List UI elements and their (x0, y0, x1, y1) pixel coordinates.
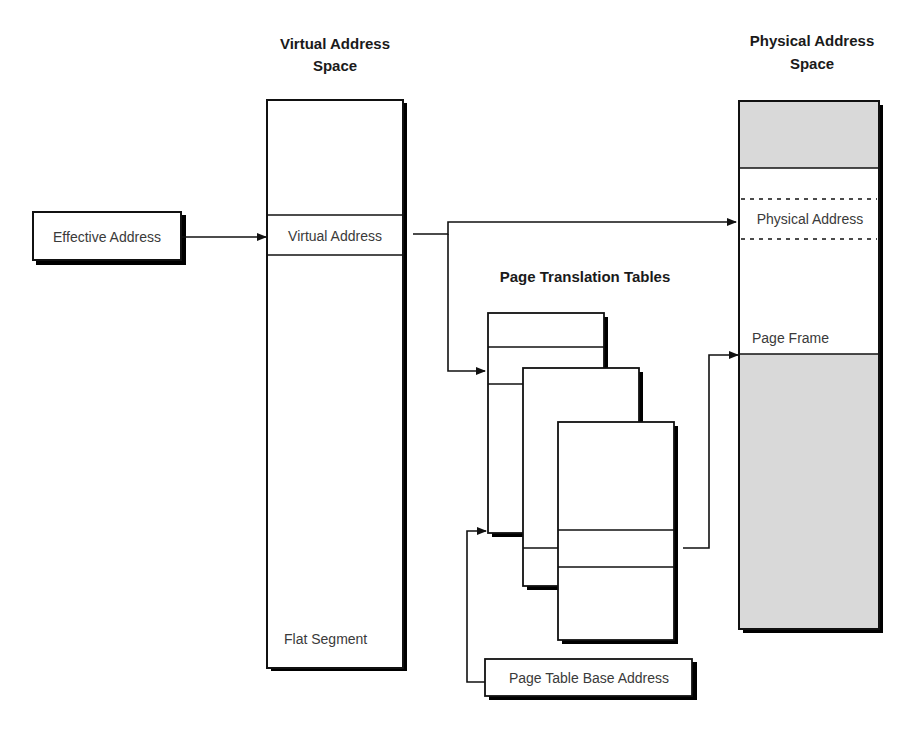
arrow-pte-to-page-frame (683, 355, 738, 548)
flat-segment-label: Flat Segment (284, 631, 367, 647)
address-translation-diagram: Virtual Address Space Physical Address S… (0, 0, 922, 737)
effective-address-label: Effective Address (53, 229, 161, 245)
shaded-region-top (740, 102, 878, 168)
physical-address-label: Physical Address (757, 211, 864, 227)
arrow-base-to-page-tables (467, 531, 486, 682)
physical-space-header-line1: Physical Address (750, 32, 875, 49)
arrow-virtual-to-page-tables (448, 234, 485, 371)
virtual-space-header-line2: Space (313, 57, 357, 74)
virtual-address-space: Virtual Address Flat Segment (267, 100, 407, 671)
virtual-space-header-line1: Virtual Address (280, 35, 390, 52)
virtual-address-label: Virtual Address (288, 228, 382, 244)
page-frame-label: Page Frame (752, 330, 829, 346)
page-table-base-address-label: Page Table Base Address (509, 670, 669, 686)
physical-address-space: Physical Address Page Frame (739, 101, 883, 633)
page-table-base-address-box: Page Table Base Address (485, 659, 697, 700)
physical-space-header-line2: Space (790, 55, 834, 72)
effective-address-box: Effective Address (33, 212, 186, 265)
page-translation-tables (488, 313, 678, 644)
page-tables-header: Page Translation Tables (500, 268, 671, 285)
shaded-region-bottom (740, 354, 878, 628)
arrow-virtual-to-physical (413, 222, 736, 234)
